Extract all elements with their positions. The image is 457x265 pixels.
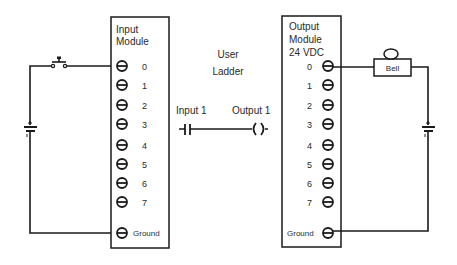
output-terminal-label-6: 6	[307, 179, 312, 189]
input-terminal-label-2: 2	[142, 101, 147, 111]
output-terminal-ground: Ground	[287, 228, 333, 238]
output-coil-icon	[254, 123, 269, 135]
bell-label: Bell	[386, 64, 400, 73]
input-circuit	[24, 57, 118, 234]
input-ground-label: Ground	[133, 229, 160, 238]
output-terminal-label-2: 2	[307, 101, 312, 111]
input-wire-top	[30, 66, 52, 125]
output-wire-bottom	[333, 131, 428, 231]
ladder-title-1: User	[217, 49, 239, 60]
diagram-canvas: Input Module 0 1 2 3 4	[0, 0, 457, 265]
user-ladder: User Ladder Input 1 Output 1	[176, 49, 271, 135]
input-terminal-label-3: 3	[142, 120, 147, 130]
input-terminal-label-6: 6	[142, 179, 147, 189]
output-terminal-label-0: 0	[307, 62, 312, 72]
push-button-switch-icon	[51, 57, 66, 68]
coil-label: Output 1	[232, 105, 271, 116]
bell-icon: Bell	[374, 49, 411, 76]
output-terminal-label-4: 4	[307, 141, 312, 151]
normally-open-contact-icon	[179, 124, 190, 135]
input-terminal-label-7: 7	[142, 198, 147, 208]
output-module-title-2: Module	[289, 34, 322, 45]
output-terminal-label-1: 1	[307, 81, 312, 91]
output-terminal-label-3: 3	[307, 120, 312, 130]
input-wire-bottom	[30, 131, 118, 233]
input-terminal-ground: Ground	[117, 228, 160, 238]
input-module: Input Module 0 1 2 3 4	[111, 17, 169, 248]
output-circuit: Bell	[333, 49, 435, 231]
output-ground-label: Ground	[287, 229, 314, 238]
input-terminal-label-1: 1	[142, 81, 147, 91]
output-module-title-1: Output	[289, 21, 319, 32]
output-terminal-label-7: 7	[307, 198, 312, 208]
input-terminal-label-4: 4	[142, 141, 147, 151]
ladder-title-2: Ladder	[212, 66, 244, 77]
input-module-title-1: Input	[116, 24, 138, 35]
input-module-title-2: Module	[116, 36, 149, 47]
input-terminal-label-0: 0	[142, 62, 147, 72]
input-terminal-label-5: 5	[142, 160, 147, 170]
output-module-title-3: 24 VDC	[289, 47, 324, 58]
output-wire-right	[411, 67, 428, 125]
output-module: Output Module 24 VDC 0 1 2 3 4	[282, 16, 341, 247]
contact-label: Input 1	[176, 105, 207, 116]
output-terminal-label-5: 5	[307, 160, 312, 170]
